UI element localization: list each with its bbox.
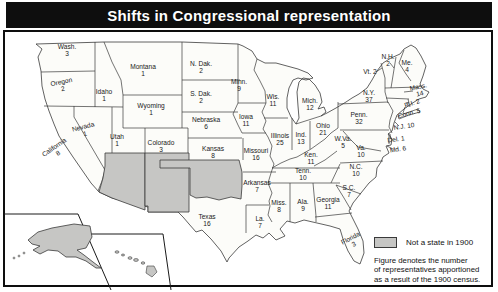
legend-swatch-not-a-state (374, 237, 397, 248)
hawaii-inset-box (87, 234, 171, 290)
figure-page: Shifts in Congressional representation (0, 0, 498, 292)
alaska-shape (13, 224, 101, 268)
caption-line-2: of representatives apportioned (374, 265, 480, 274)
map-legend: Not a state in 1900 (374, 237, 473, 248)
legend-label: Not a state in 1900 (406, 238, 473, 247)
caption-line-3: as a result of the 1900 census. (374, 275, 480, 284)
caption-line-1: Figure denotes the number (374, 256, 480, 265)
us-map-svg (0, 0, 498, 292)
hawaii-islands (115, 251, 157, 277)
arizona-shape (99, 153, 145, 210)
alaska-inset-box (4, 214, 111, 290)
figure-caption: Figure denotes the number of representat… (374, 256, 480, 284)
